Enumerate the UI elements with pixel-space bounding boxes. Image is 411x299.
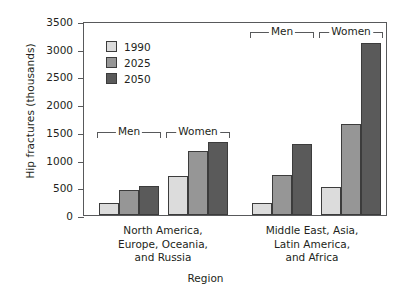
bracket-region1-men: Men (250, 27, 314, 38)
y-tick-1000 (78, 162, 84, 163)
legend-item-1990: 1990 (106, 39, 151, 54)
bracket-region1-women: Women (319, 27, 383, 38)
bar-region1-women-2025 (341, 124, 361, 215)
bar-region0-men-2025 (119, 190, 139, 215)
bar-region0-men-2050 (139, 186, 159, 215)
category-label-region0: North America, Europe, Oceania, and Russ… (83, 224, 243, 265)
y-tick-label: 1000 (46, 155, 73, 167)
bar-region1-women-2050 (361, 43, 381, 215)
y-tick-label: 0 (66, 210, 73, 222)
y-tick-label: 3500 (46, 16, 73, 28)
y-tick-label: 3000 (46, 44, 73, 56)
y-tick-label: 2500 (46, 71, 73, 83)
legend-item-2025: 2025 (106, 55, 151, 70)
bracket-label-women: Women (176, 125, 220, 137)
y-tick-2500 (78, 78, 84, 79)
bar-region0-women-2025 (188, 151, 208, 215)
x-axis-title: Region (0, 272, 411, 284)
bar-region1-men-1990 (252, 203, 272, 216)
legend-label: 1990 (124, 41, 151, 53)
bracket-cap-right (382, 32, 383, 38)
y-tick-3500 (78, 23, 84, 24)
legend-swatch-icon (106, 57, 117, 68)
category-label-line: and Africa (232, 251, 392, 265)
bracket-label-men: Men (269, 25, 295, 37)
bar-region0-women-2050 (208, 142, 228, 215)
chart-legend: 1990 2025 2050 (106, 39, 151, 87)
bracket-region0-men: Men (97, 127, 161, 138)
plot-area: Men Women Men Women 1990 (83, 22, 387, 216)
chart-figure: Hip fractures (thousands) 3500 3000 2500… (0, 0, 411, 299)
bracket-cap-right (229, 132, 230, 138)
y-tick-0 (78, 217, 84, 218)
bracket-label-women: Women (329, 25, 373, 37)
y-tick-label: 500 (53, 182, 73, 194)
bar-region1-men-2025 (272, 175, 292, 215)
bracket-cap-right (160, 132, 161, 138)
bar-region1-women-1990 (321, 187, 341, 215)
bracket-label-men: Men (116, 125, 142, 137)
category-label-line: and Russia (83, 251, 243, 265)
bar-region0-men-1990 (99, 203, 119, 216)
legend-swatch-icon (106, 73, 117, 84)
category-label-region1: Middle East, Asia, Latin America, and Af… (232, 224, 392, 265)
y-tick-3000 (78, 51, 84, 52)
y-tick-500 (78, 189, 84, 190)
bar-region1-men-2050 (292, 144, 312, 216)
bracket-region0-women: Women (166, 127, 230, 138)
bar-region0-women-1990 (168, 176, 188, 215)
legend-swatch-icon (106, 41, 117, 52)
y-tick-label: 1500 (46, 127, 73, 139)
category-label-line: Europe, Oceania, (83, 238, 243, 252)
y-tick-1500 (78, 134, 84, 135)
legend-item-2050: 2050 (106, 71, 151, 86)
y-tick-2000 (78, 106, 84, 107)
legend-label: 2025 (124, 57, 151, 69)
bracket-cap-right (313, 32, 314, 38)
category-label-line: Middle East, Asia, (232, 224, 392, 238)
category-label-line: North America, (83, 224, 243, 238)
category-label-line: Latin America, (232, 238, 392, 252)
y-axis-tick-labels: 3500 3000 2500 2000 1500 1000 500 0 (0, 0, 78, 299)
y-tick-label: 2000 (46, 99, 73, 111)
legend-label: 2050 (124, 73, 151, 85)
